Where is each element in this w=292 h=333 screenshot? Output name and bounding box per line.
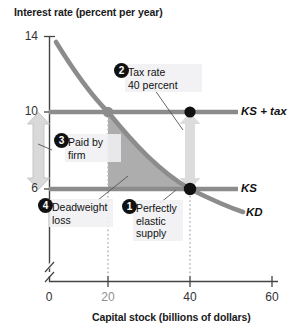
callout-paid-by-firm: Paid by firm	[65, 134, 121, 162]
callout-deadweight-loss-line2: loss	[52, 214, 109, 227]
y-tick-label-6: 6	[16, 181, 38, 195]
x-tick-label-40: 40	[175, 290, 205, 304]
callout-tax-rate-line2: 40 percent	[128, 79, 198, 92]
economics-chart-figure: Interest rate (percent per year) Capital…	[0, 0, 292, 333]
y-tick-label-10: 10	[16, 104, 38, 118]
callout-perfectly-elastic-supply-line3: supply	[136, 227, 179, 240]
callout-tax-rate: Tax rate 40 percent	[125, 64, 202, 92]
x-tick-label-20: 20	[93, 290, 123, 304]
equilibrium-dot-with-tax	[103, 107, 113, 117]
callout-perfectly-elastic-supply-line2: elastic	[136, 215, 179, 228]
y-axis-title: Interest rate (percent per year)	[14, 6, 163, 18]
callout-deadweight-loss: Deadweight loss	[49, 199, 113, 227]
paid-by-firm-arrow	[28, 113, 50, 190]
equilibrium-dot-no-tax	[184, 183, 196, 195]
callout-deadweight-loss-line1: Deadweight	[52, 201, 109, 214]
callout-paid-by-firm-line2: firm	[68, 149, 117, 162]
callout-badge-1: 1	[122, 199, 137, 214]
callout-badge-2: 2	[114, 63, 129, 78]
callout-paid-by-firm-line1: Paid by	[68, 136, 117, 149]
kd-label: KD	[246, 206, 263, 218]
x-tick-label-0: 0	[34, 290, 64, 304]
callout-perfectly-elastic-supply-line1: Perfectly	[136, 202, 179, 215]
x-tick-label-60: 60	[257, 290, 287, 304]
callout-badge-4: 4	[38, 198, 53, 213]
tax-point-dot	[184, 106, 195, 117]
ks-label: KS	[241, 182, 257, 194]
callout-badge-3: 3	[54, 133, 69, 148]
callout-tax-rate-line1: Tax rate	[128, 66, 198, 79]
leader-line-callout-2	[152, 86, 183, 130]
x-axis-title: Capital stock (billions of dollars)	[92, 311, 251, 323]
chart-canvas	[0, 0, 292, 333]
callout-perfectly-elastic-supply: Perfectly elastic supply	[133, 200, 183, 241]
ks-plus-tax-label: KS + tax	[241, 105, 287, 117]
y-tick-label-14: 14	[16, 29, 38, 43]
tax-wedge-arrow	[180, 113, 201, 190]
